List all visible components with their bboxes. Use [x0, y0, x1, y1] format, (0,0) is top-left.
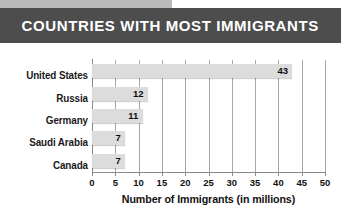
bar-value-label: 12	[133, 87, 144, 101]
x-axis-tick	[255, 173, 256, 176]
x-tick-label: 35	[243, 177, 267, 188]
x-tick-label: 40	[266, 177, 290, 188]
x-axis-tick	[209, 173, 210, 176]
x-axis-tick	[92, 173, 93, 176]
x-axis-tick	[232, 173, 233, 176]
plot-wrapper: United StatesRussiaGermanySaudi ArabiaCa…	[0, 43, 353, 223]
header-top-strip	[0, 0, 172, 8]
x-tick-label: 20	[173, 177, 197, 188]
x-tick-label: 10	[127, 177, 151, 188]
x-axis-tick	[325, 173, 326, 176]
x-axis-tick	[302, 173, 303, 176]
category-label: Canada	[5, 159, 88, 171]
x-tick-label: 15	[150, 177, 174, 188]
bar-value-label: 7	[116, 131, 121, 145]
category-axis-labels: United StatesRussiaGermanySaudi ArabiaCa…	[0, 64, 88, 173]
immigration-bar-chart: COUNTRIES WITH MOST IMMIGRANTS United St…	[0, 0, 353, 223]
category-label: Russia	[5, 92, 88, 104]
chart-title: COUNTRIES WITH MOST IMMIGRANTS	[22, 17, 319, 35]
bar	[92, 64, 292, 78]
x-axis-tick	[115, 173, 116, 176]
x-tick-label: 5	[103, 177, 127, 188]
bar-value-label: 43	[277, 64, 288, 78]
x-axis-title: Number of Immigrants (in millions)	[95, 193, 321, 205]
x-tick-label: 30	[220, 177, 244, 188]
x-axis-tick-labels: 05101520253035404550	[0, 177, 353, 190]
x-axis-tick	[162, 173, 163, 176]
gridline	[325, 60, 326, 172]
category-label: Saudi Arabia	[5, 136, 88, 148]
x-tick-label: 25	[197, 177, 221, 188]
x-tick-label: 45	[290, 177, 314, 188]
bar-value-label: 7	[116, 154, 121, 168]
x-tick-label: 0	[80, 177, 104, 188]
x-tick-label: 50	[313, 177, 337, 188]
chart-header-bar: COUNTRIES WITH MOST IMMIGRANTS	[0, 8, 341, 43]
category-label: United States	[5, 69, 88, 81]
x-axis-tick	[139, 173, 140, 176]
bar-value-label: 11	[128, 109, 138, 123]
category-label: Germany	[5, 114, 88, 126]
bars-layer: 43121177	[92, 60, 325, 172]
x-axis-tick	[185, 173, 186, 176]
x-axis-tick	[278, 173, 279, 176]
